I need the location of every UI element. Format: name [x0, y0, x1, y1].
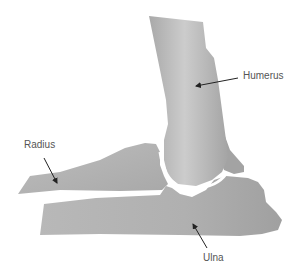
- elbow-diagram: [0, 0, 302, 276]
- radius-bone: [18, 143, 168, 194]
- ulna-label: Ulna: [203, 252, 224, 263]
- radius-label: Radius: [24, 139, 55, 150]
- humerus-label: Humerus: [243, 70, 284, 81]
